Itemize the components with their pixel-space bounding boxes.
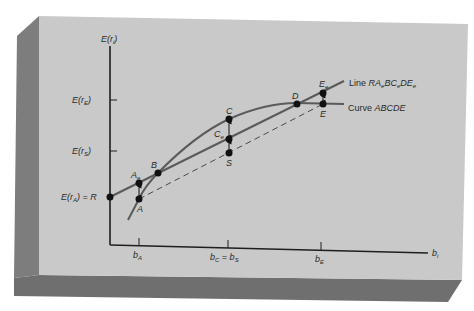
diagram-stage: E(ri) E(rE) E(rS) E(rA) = R bA bC = bS b…	[0, 0, 474, 311]
label-c: C	[226, 106, 233, 116]
y-axis-title: E(ri)	[101, 34, 117, 45]
diagram-svg: E(ri) E(rE) E(rS) E(rA) = R bA bC = bS b…	[0, 0, 474, 311]
point-e	[320, 101, 327, 108]
label-e: E	[320, 109, 327, 119]
point-c	[226, 116, 233, 123]
point-r	[107, 194, 114, 201]
label-b: B	[151, 160, 157, 170]
label-d: D	[292, 91, 299, 101]
panel	[14, 16, 468, 302]
point-b	[155, 170, 162, 177]
y-tick-label-er-e: E(rE)	[72, 95, 91, 106]
label-a: A	[136, 204, 143, 214]
point-a	[136, 196, 143, 203]
point-ee	[320, 90, 327, 97]
point-ce	[226, 136, 233, 143]
label-s: S	[226, 158, 232, 168]
y-tick-label-er-s: E(rS)	[72, 146, 91, 157]
panel-face	[39, 16, 468, 280]
y-tick-label-er-a: E(rA) = R	[61, 192, 97, 203]
x-tick-label-b-c: bC = bS	[210, 252, 239, 263]
point-d	[294, 101, 301, 108]
legend-curve-label: Curve ABCDE	[348, 103, 407, 113]
point-s	[226, 150, 233, 157]
panel-left-side	[14, 16, 39, 278]
